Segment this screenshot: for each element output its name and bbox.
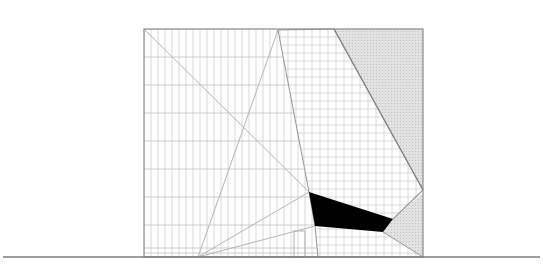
black-window-opening xyxy=(309,192,393,232)
elevation-drawing xyxy=(0,0,543,280)
lower-shaded-facet xyxy=(383,193,423,257)
